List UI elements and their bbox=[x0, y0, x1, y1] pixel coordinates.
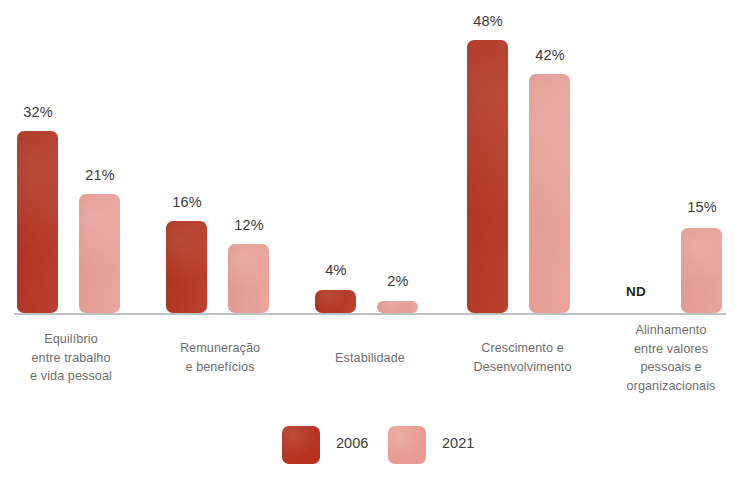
bar-value-g0-2021: 21% bbox=[65, 167, 135, 183]
bar-value-g0-2006: 32% bbox=[3, 104, 73, 120]
bar-value-g3-2021: 42% bbox=[515, 47, 585, 63]
legend-label-2006: 2006 bbox=[336, 435, 368, 451]
legend-swatch-2006-icon bbox=[282, 426, 320, 464]
bar-g0-2006[interactable] bbox=[17, 131, 58, 313]
category-label-2-line1: Estabilidade bbox=[305, 349, 435, 368]
bar-g3-2006[interactable] bbox=[467, 40, 508, 313]
bar-g2-2021[interactable] bbox=[377, 301, 418, 313]
category-label-3: Crescimento e Desenvolvimento bbox=[455, 339, 590, 376]
legend-item-2006[interactable]: 2006 bbox=[282, 424, 402, 470]
legend-swatch-2021-icon bbox=[388, 426, 426, 464]
bar-g1-2021[interactable] bbox=[228, 244, 269, 313]
category-label-0: Equilíbrio entre trabalho e vida pessoal bbox=[6, 330, 136, 386]
category-label-0-line2: entre trabalho bbox=[6, 349, 136, 368]
category-label-0-line1: Equilíbrio bbox=[6, 330, 136, 349]
category-label-3-line1: Crescimento e bbox=[455, 339, 590, 358]
bar-value-g2-2021: 2% bbox=[363, 273, 433, 289]
bar-g3-2021[interactable] bbox=[529, 74, 570, 313]
category-label-4-line2: entre valores bbox=[605, 340, 737, 359]
category-label-1: Remuneração e benefícios bbox=[155, 339, 285, 376]
bar-value-g3-2006: 48% bbox=[453, 13, 523, 29]
bar-g2-2006[interactable] bbox=[315, 290, 356, 313]
category-label-0-line3: e vida pessoal bbox=[6, 367, 136, 386]
axis-baseline bbox=[14, 313, 726, 315]
chart-legend: 2006 2021 bbox=[0, 424, 740, 484]
bar-g1-2006[interactable] bbox=[166, 221, 207, 313]
category-label-2: Estabilidade bbox=[305, 349, 435, 368]
legend-label-2021: 2021 bbox=[442, 435, 474, 451]
category-label-1-line2: e benefícios bbox=[155, 358, 285, 377]
bar-value-g2-2006: 4% bbox=[301, 262, 371, 278]
category-label-4-line1: Alinhamento bbox=[605, 321, 737, 340]
category-label-4-line4: organizacionais bbox=[605, 377, 737, 396]
category-label-4: Alinhamento entre valores pessoais e org… bbox=[605, 321, 737, 395]
bar-chart: 32% 21% 16% 12% 4% 2% 48% 42% ND 15% Equ… bbox=[0, 0, 740, 500]
bar-g0-2021[interactable] bbox=[79, 194, 120, 313]
plot-area: 32% 21% 16% 12% 4% 2% 48% 42% ND 15% bbox=[0, 0, 740, 316]
legend-item-2021[interactable]: 2021 bbox=[388, 424, 508, 470]
bar-g4-2021[interactable] bbox=[681, 228, 722, 313]
bar-value-g4-2021: 15% bbox=[667, 199, 737, 215]
category-label-4-line3: pessoais e bbox=[605, 358, 737, 377]
bar-value-g4-2006-nd: ND bbox=[601, 284, 671, 299]
bar-value-g1-2021: 12% bbox=[214, 217, 284, 233]
bar-value-g1-2006: 16% bbox=[152, 194, 222, 210]
category-label-1-line1: Remuneração bbox=[155, 339, 285, 358]
category-label-3-line2: Desenvolvimento bbox=[455, 358, 590, 377]
